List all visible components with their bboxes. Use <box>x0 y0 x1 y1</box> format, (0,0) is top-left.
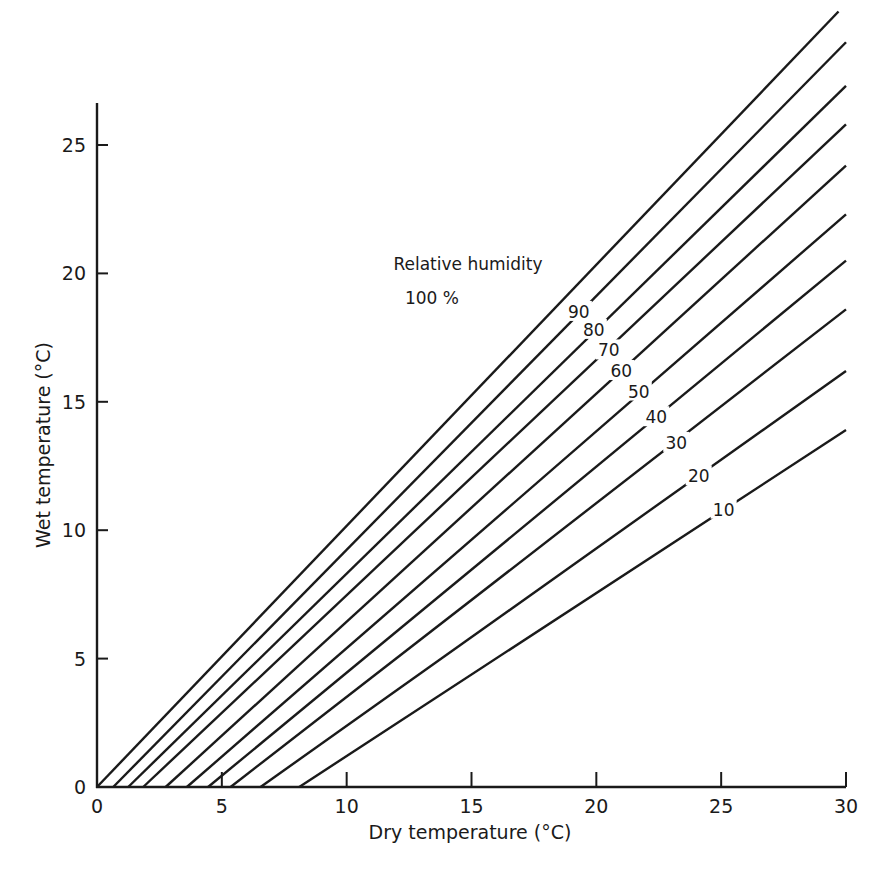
relative-humidity-title: Relative humidity <box>393 254 542 274</box>
x-tick-label: 20 <box>584 795 608 817</box>
x-axis-title: Dry temperature (°C) <box>369 821 572 843</box>
y-tick-label: 0 <box>74 776 86 798</box>
curve-label-100: 100 % <box>405 288 459 308</box>
humidity-curves <box>97 11 846 787</box>
curve-label-20: 20 <box>688 466 710 486</box>
humidity-curve-10 <box>299 430 846 787</box>
y-tick-label: 25 <box>62 134 86 156</box>
humidity-curve-100 <box>97 11 839 787</box>
curve-label-50: 50 <box>628 382 650 402</box>
y-tick-label: 10 <box>62 519 86 541</box>
curve-label-60: 60 <box>610 361 632 381</box>
curve-labels: 908070605040302010 <box>566 301 737 520</box>
x-tick-label: 15 <box>459 795 483 817</box>
y-axis-title: Wet temperature (°C) <box>32 342 54 548</box>
psychrometric-chart: 051015202530 0510152025 Dry temperature … <box>0 0 886 872</box>
x-tick-label: 30 <box>834 795 858 817</box>
humidity-curve-80 <box>128 86 846 787</box>
y-tick-label: 15 <box>62 391 86 413</box>
y-axis-ticks: 0510152025 <box>62 134 108 798</box>
y-tick-label: 5 <box>74 648 86 670</box>
x-axis-ticks: 051015202530 <box>91 772 858 817</box>
humidity-curve-30 <box>231 309 846 787</box>
humidity-curve-50 <box>187 214 846 787</box>
humidity-curve-40 <box>208 261 846 787</box>
x-tick-label: 5 <box>216 795 228 817</box>
x-tick-label: 25 <box>709 795 733 817</box>
curve-label-30: 30 <box>665 433 687 453</box>
x-tick-label: 0 <box>91 795 103 817</box>
curve-label-10: 10 <box>713 500 735 520</box>
curve-label-80: 80 <box>583 320 605 340</box>
curve-label-70: 70 <box>598 340 620 360</box>
curve-label-40: 40 <box>645 407 667 427</box>
humidity-curve-90 <box>113 42 846 787</box>
humidity-curve-70 <box>143 124 846 787</box>
y-tick-label: 20 <box>62 262 86 284</box>
x-tick-label: 10 <box>335 795 359 817</box>
